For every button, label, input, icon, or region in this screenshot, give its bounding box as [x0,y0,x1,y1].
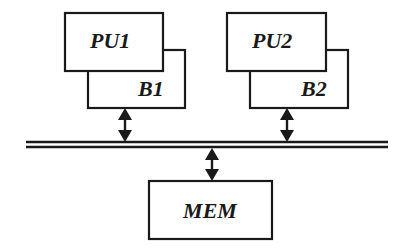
unit-1: B1 PU1 [65,13,185,108]
arrow-b2-bus-icon [280,108,294,142]
processor-pu1-label: PU1 [89,28,130,53]
buffer-b2-label: B2 [300,76,327,101]
buffer-b1-label: B1 [137,76,164,101]
arrow-bus-mem-icon [205,148,219,181]
arrow-b1-bus-icon [118,108,132,142]
processor-pu2-label: PU2 [251,28,292,53]
memory-unit: MEM [149,181,272,239]
system-bus [26,142,388,147]
memory-mem-label: MEM [182,198,238,223]
unit-2: B2 PU2 [227,13,348,108]
diagram-canvas: B1 PU1 B2 PU2 MEM [0,0,409,251]
